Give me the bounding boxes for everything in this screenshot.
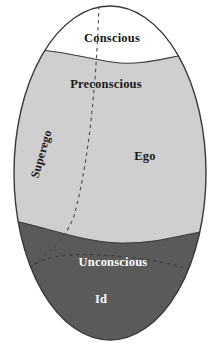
psyche-diagram-canvas: Conscious Preconscious Superego Ego Unco… bbox=[0, 0, 223, 349]
label-conscious: Conscious bbox=[84, 31, 140, 45]
label-ego: Ego bbox=[134, 149, 155, 163]
label-id: Id bbox=[95, 292, 107, 306]
psyche-diagram: Conscious Preconscious Superego Ego Unco… bbox=[0, 0, 223, 349]
label-preconscious: Preconscious bbox=[70, 77, 142, 91]
label-unconscious: Unconscious bbox=[79, 255, 148, 269]
